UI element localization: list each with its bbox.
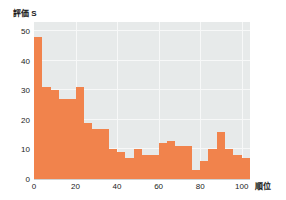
plot-area (34, 22, 250, 179)
histogram-bar (233, 155, 241, 179)
histogram-bar (125, 158, 133, 179)
histogram-bar (192, 170, 200, 179)
histogram-bar (225, 149, 233, 179)
histogram-bar (59, 99, 67, 179)
y-tick-label: 30 (4, 86, 30, 95)
y-tick-label: 10 (4, 145, 30, 154)
y-tick-label: 50 (4, 26, 30, 35)
x-tick-label: 100 (227, 182, 257, 191)
histogram-bar (167, 141, 175, 180)
histogram-bar (175, 146, 183, 179)
x-tick-label: 0 (19, 182, 49, 191)
histogram-bar (142, 155, 150, 179)
x-axis-baseline (34, 179, 250, 180)
histogram-bar (150, 155, 158, 179)
histogram-bar (76, 87, 84, 179)
y-axis-label: 評価 S (13, 7, 37, 18)
x-tick-label: 80 (185, 182, 215, 191)
histogram-bar (84, 123, 92, 179)
histogram-bar (100, 129, 108, 179)
y-tick-label: 20 (4, 115, 30, 124)
x-axis-ticks: 020406080100 (34, 182, 250, 196)
bar-series (34, 22, 250, 179)
histogram-bar (159, 143, 167, 179)
histogram-bar (208, 149, 216, 179)
histogram-bar (117, 152, 125, 179)
histogram-bar (67, 99, 75, 179)
histogram-bar (42, 87, 50, 179)
histogram-bar (34, 37, 42, 179)
histogram-bar (184, 146, 192, 179)
x-tick-label: 60 (144, 182, 174, 191)
y-tick-label: 40 (4, 56, 30, 65)
histogram-bar (109, 149, 117, 179)
histogram-bar (217, 132, 225, 179)
x-tick-label: 40 (102, 182, 132, 191)
histogram-bar (134, 149, 142, 179)
histogram-bar (51, 90, 59, 179)
y-axis-ticks: 01020304050 (0, 22, 30, 179)
histogram-bar (242, 158, 250, 179)
x-tick-label: 20 (61, 182, 91, 191)
histogram-bar (92, 129, 100, 179)
x-axis-label: 順位 (255, 180, 271, 191)
histogram-bar (200, 161, 208, 179)
histogram-figure: 評価 S 01020304050 020406080100 順位 (0, 0, 286, 200)
